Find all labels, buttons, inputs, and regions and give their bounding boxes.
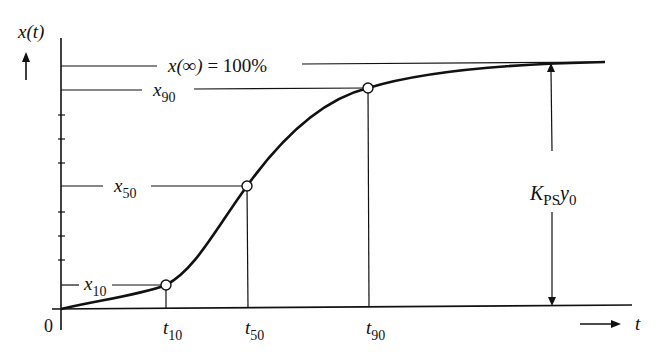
drop-line-t50 [247, 186, 248, 308]
time-label-t90: t90 [366, 317, 385, 343]
level-label-x50: x50 [113, 175, 136, 201]
y-axis-label: x(t) [17, 21, 44, 43]
step-response-diagram: x(t) 0 t x(∞) = 100% x90 x50 x10 [0, 0, 662, 361]
response-curve [61, 62, 605, 309]
point-t10 [161, 280, 171, 290]
x-axis-label: t [635, 313, 641, 334]
time-label-t10: t10 [163, 317, 182, 343]
point-t50 [242, 181, 252, 191]
origin-label: 0 [44, 316, 53, 336]
amplitude-double-arrow-icon [547, 63, 556, 306]
y-axis [58, 38, 65, 330]
amplitude-label: KPSy0 [529, 182, 576, 208]
x-axis-arrow-icon [580, 320, 621, 328]
level-line-x90 [61, 88, 368, 90]
time-label-t50: t50 [245, 317, 264, 343]
asymptote-label: x(∞) = 100% [167, 55, 267, 77]
x-axis [52, 305, 632, 309]
drop-line-t90 [368, 88, 369, 307]
level-label-x90: x90 [152, 79, 175, 105]
y-axis-arrow-icon [22, 52, 30, 80]
level-label-x10: x10 [83, 273, 106, 299]
point-t90 [363, 83, 373, 93]
